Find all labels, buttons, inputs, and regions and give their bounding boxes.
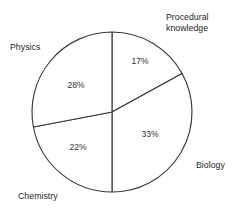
pie-chart-figure: 17%33%22%28% ProceduralknowledgeBiologyC… xyxy=(0,0,235,216)
pie-slice-percent-label: 17% xyxy=(131,56,148,66)
pie-slices-group xyxy=(32,32,192,192)
pie-slice-percent-label: 33% xyxy=(141,129,158,139)
pie-chart-svg: 17%33%22%28% ProceduralknowledgeBiologyC… xyxy=(0,0,235,216)
pie-slice-category-label-line: Chemistry xyxy=(18,191,58,201)
pie-slice-category-label: Physics xyxy=(10,42,41,52)
pie-slice-category-label-line: knowledge xyxy=(166,23,208,33)
pie-slice-category-label: Chemistry xyxy=(18,191,58,201)
pie-slice-percent-label: 28% xyxy=(67,80,84,90)
pie-slice-category-label-line: Procedural xyxy=(166,12,209,22)
pie-slice-category-label: Proceduralknowledge xyxy=(166,12,209,33)
pie-slice-percent-label: 22% xyxy=(69,142,86,152)
pie-slice-category-label-line: Physics xyxy=(10,42,41,52)
pie-slice-category-label: Biology xyxy=(196,160,225,170)
pie-slice-category-label-line: Biology xyxy=(196,160,225,170)
